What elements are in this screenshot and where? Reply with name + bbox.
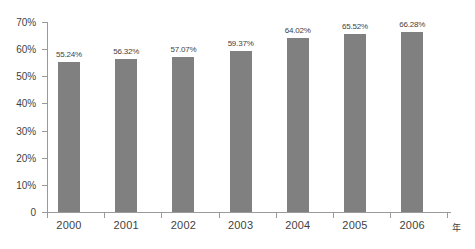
y-axis-tick-label: 70%: [16, 17, 36, 28]
y-axis-tick: [42, 103, 47, 104]
bar-value-label: 59.37%: [213, 39, 269, 48]
y-axis-tick-label: 60%: [16, 44, 36, 55]
bar-value-label: 64.02%: [270, 26, 326, 35]
bar-chart: 010%20%30%40%50%60%70%55.24%200056.32%20…: [0, 0, 475, 249]
y-axis-tick-label: 10%: [16, 179, 36, 190]
x-axis-tick-label: 2003: [211, 219, 271, 231]
bar-value-label: 66.28%: [384, 20, 440, 29]
x-axis-tick: [104, 213, 105, 218]
y-axis-tick-label: 20%: [16, 152, 36, 163]
y-axis-tick: [42, 76, 47, 77]
x-axis-tick-label: 2006: [382, 219, 442, 231]
bar-value-label: 57.07%: [155, 45, 211, 54]
bar: [401, 32, 423, 212]
x-axis-tick: [47, 213, 48, 218]
bar: [172, 57, 194, 212]
bar-value-label: 65.52%: [327, 22, 383, 31]
bar-value-label: 56.32%: [98, 47, 154, 56]
y-axis-tick-label: 40%: [16, 98, 36, 109]
x-axis-tick: [161, 213, 162, 218]
x-axis-tick: [219, 213, 220, 218]
x-axis-tick-label: 2002: [153, 219, 213, 231]
x-axis-tick: [276, 213, 277, 218]
bar-value-label: 55.24%: [41, 50, 97, 59]
x-axis-title: 年: [452, 221, 461, 234]
bar: [344, 34, 366, 212]
y-axis-tick-label: 50%: [16, 71, 36, 82]
x-axis-tick-label: 2000: [39, 219, 99, 231]
plot-area: 010%20%30%40%50%60%70%55.24%200056.32%20…: [0, 0, 475, 249]
x-axis-tick-label: 2004: [268, 219, 328, 231]
x-axis-tick: [447, 213, 448, 218]
x-axis-tick: [390, 213, 391, 218]
y-axis-tick: [42, 158, 47, 159]
bar: [287, 38, 309, 212]
y-axis-tick: [42, 22, 47, 23]
y-axis-tick: [42, 185, 47, 186]
y-axis-tick-label: 30%: [16, 125, 36, 136]
bar: [230, 51, 252, 212]
x-axis-tick: [333, 213, 334, 218]
y-axis-tick-label: 0: [31, 207, 36, 218]
x-axis-tick-label: 2001: [96, 219, 156, 231]
y-axis-tick: [42, 131, 47, 132]
x-axis-tick-label: 2005: [325, 219, 385, 231]
bar: [58, 62, 80, 212]
bar: [115, 59, 137, 212]
